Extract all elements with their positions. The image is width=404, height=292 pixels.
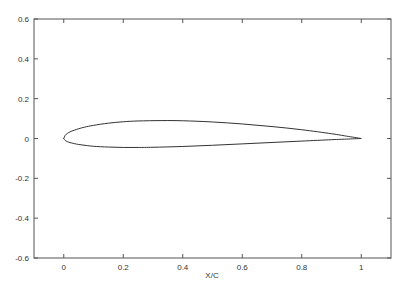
y-tick-label: -0.6 bbox=[15, 254, 29, 263]
y-axis-ticks: 0.60.40.20-0.2-0.4-0.6 bbox=[15, 15, 391, 263]
x-tick-label: 0.2 bbox=[118, 263, 130, 272]
y-tick-label: 0.6 bbox=[18, 15, 30, 24]
x-tick-label: 0.6 bbox=[237, 263, 249, 272]
x-tick-label: 0 bbox=[62, 263, 67, 272]
y-tick-label: 0 bbox=[25, 135, 30, 144]
airfoil-outline bbox=[64, 121, 362, 148]
plot-frame bbox=[34, 19, 391, 258]
y-tick-label: -0.2 bbox=[15, 174, 29, 183]
x-axis-label: X/C bbox=[205, 271, 219, 280]
y-tick-label: -0.4 bbox=[15, 214, 29, 223]
x-tick-label: 0.4 bbox=[177, 263, 189, 272]
y-tick-label: 0.2 bbox=[18, 95, 30, 104]
y-tick-label: 0.4 bbox=[18, 55, 30, 64]
x-tick-label: 1 bbox=[359, 263, 364, 272]
x-tick-label: 0.8 bbox=[296, 263, 308, 272]
airfoil-chart: 0.60.40.20-0.2-0.4-0.6 00.20.40.60.81 X/… bbox=[0, 0, 404, 292]
